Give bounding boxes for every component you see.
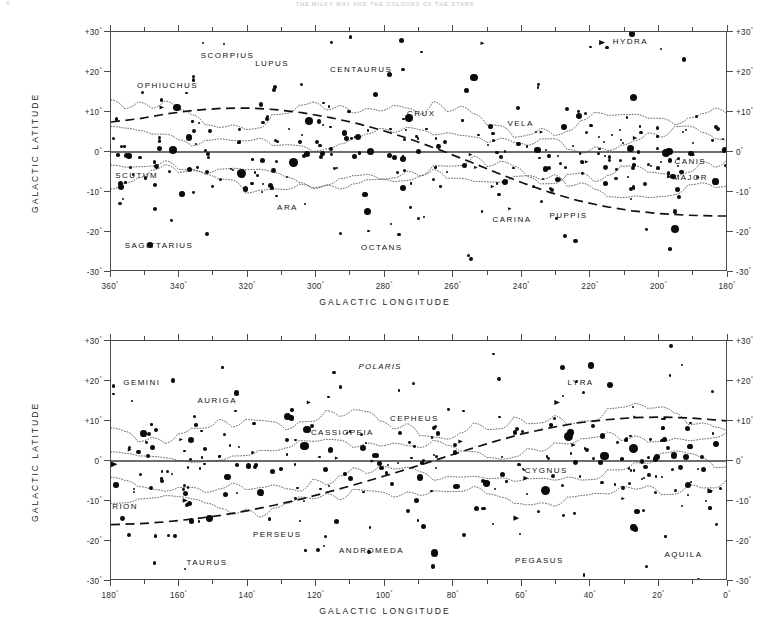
- star-marker: [687, 444, 692, 449]
- star-marker: [161, 470, 164, 473]
- star-marker: [410, 457, 412, 459]
- x-tick-major: [247, 334, 248, 340]
- star-marker: [140, 430, 147, 437]
- star-marker: [290, 408, 293, 411]
- star-marker: [641, 478, 643, 480]
- star-marker: [573, 460, 578, 465]
- y-tick-label: -20°: [70, 535, 102, 546]
- star-marker-triangle: [571, 443, 576, 447]
- star-marker: [203, 447, 207, 451]
- star-marker: [147, 432, 151, 436]
- star-marker: [166, 470, 169, 473]
- star-marker: [200, 430, 203, 433]
- x-tick-minor: [212, 580, 213, 584]
- plot-frame: GEMINIAURIGAPOLARISCEPHEUSCASSIOPEIALYRA…: [110, 340, 727, 580]
- y-tick-mark: [727, 420, 733, 421]
- star-marker: [303, 500, 305, 502]
- star-marker: [592, 457, 595, 460]
- star-marker: [498, 416, 500, 418]
- star-marker: [254, 463, 258, 467]
- star-marker: [327, 396, 330, 399]
- x-tick-major: [658, 334, 659, 340]
- star-marker-triangle: [621, 497, 625, 500]
- y-tick-label: 0°: [70, 455, 102, 466]
- star-marker: [674, 489, 677, 492]
- y-tick-label: -10°: [70, 495, 102, 506]
- star-marker: [600, 452, 608, 460]
- star-marker: [669, 344, 673, 348]
- star-marker: [607, 382, 613, 388]
- star-marker: [379, 466, 383, 470]
- star-marker: [643, 465, 648, 470]
- x-tick-major: [247, 580, 248, 586]
- star-marker: [187, 466, 190, 469]
- constellation-label: PERSEUS: [253, 530, 301, 539]
- star-marker: [567, 429, 574, 436]
- star-marker: [620, 457, 624, 461]
- y-tick-label: -10°: [736, 495, 770, 506]
- star-marker: [719, 487, 722, 490]
- star-marker: [487, 481, 490, 484]
- y-tick-label: +20°: [70, 375, 102, 386]
- star-marker: [505, 480, 508, 483]
- x-tick-minor: [349, 580, 350, 584]
- star-marker: [150, 423, 153, 426]
- constellation-label: CYGNUS: [525, 466, 568, 475]
- star-marker: [579, 475, 581, 477]
- x-tick-label: 100°: [362, 589, 406, 600]
- star-marker: [600, 433, 605, 438]
- star-marker: [709, 490, 711, 492]
- constellation-label: TAURUS: [186, 558, 227, 567]
- star-marker: [223, 433, 226, 436]
- x-tick-major: [178, 580, 179, 586]
- star-marker-triangle: [307, 401, 311, 405]
- star-marker: [436, 431, 441, 436]
- star-marker: [167, 534, 170, 537]
- star-marker: [546, 455, 548, 457]
- star-marker-triangle: [513, 516, 519, 521]
- star-marker-triangle: [335, 457, 339, 460]
- star-marker: [328, 485, 330, 487]
- star-marker: [136, 450, 141, 455]
- star-marker: [541, 486, 550, 495]
- star-marker: [712, 432, 715, 435]
- x-tick-minor: [624, 336, 625, 340]
- star-marker: [497, 377, 501, 381]
- y-axis-title: GALACTIC LATITUDE: [30, 402, 40, 522]
- star-marker: [284, 413, 291, 420]
- star-marker: [664, 535, 667, 538]
- y-tick-label: -20°: [736, 535, 770, 546]
- star-marker: [549, 423, 553, 427]
- star-marker: [286, 453, 289, 456]
- star-marker: [224, 474, 230, 480]
- x-tick-minor: [281, 580, 282, 584]
- star-marker-triangle: [110, 461, 117, 467]
- star-marker: [453, 450, 458, 455]
- star-marker: [193, 415, 196, 418]
- star-marker: [246, 463, 251, 468]
- x-tick-minor: [144, 336, 145, 340]
- x-tick-label: 60°: [499, 589, 543, 600]
- star-marker: [189, 518, 194, 523]
- y-tick-mark: [727, 460, 733, 461]
- x-tick-major: [384, 580, 385, 586]
- star-marker: [600, 481, 603, 484]
- star-marker: [171, 378, 176, 383]
- y-tick-mark: [727, 540, 733, 541]
- y-tick-label: -30°: [70, 575, 102, 586]
- x-tick-minor: [555, 580, 556, 584]
- star-marker: [700, 455, 704, 459]
- x-tick-minor: [349, 336, 350, 340]
- star-marker: [655, 475, 657, 477]
- star-marker: [447, 408, 450, 411]
- star-marker: [433, 454, 435, 456]
- star-marker: [633, 469, 636, 472]
- star-marker: [112, 384, 116, 388]
- star-marker: [661, 418, 664, 421]
- x-tick-label: 20°: [636, 589, 680, 600]
- x-tick-minor: [487, 580, 488, 584]
- y-tick-mark: [104, 380, 110, 381]
- star-marker-triangle: [523, 476, 528, 481]
- x-tick-label: 140°: [225, 589, 269, 600]
- x-tick-minor: [487, 336, 488, 340]
